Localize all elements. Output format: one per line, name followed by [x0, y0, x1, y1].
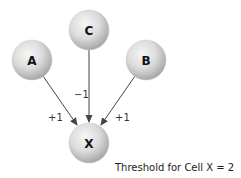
node-x: X — [69, 123, 109, 163]
threshold-caption: Threshold for Cell X = 2 — [114, 162, 234, 173]
node-c-label: C — [85, 24, 94, 38]
weight-label-c-to-x: −1 — [74, 89, 89, 100]
node-x-label: X — [84, 137, 94, 151]
neural-threshold-diagram: −1 +1 +1 C A B X Threshold for Cell X = … — [0, 0, 241, 178]
node-b: B — [126, 40, 166, 80]
node-b-label: B — [141, 54, 150, 68]
node-a-label: A — [27, 54, 37, 68]
weight-label-a-to-x: +1 — [48, 112, 63, 123]
weight-label-b-to-x: +1 — [115, 112, 130, 123]
node-c: C — [69, 10, 109, 50]
node-a: A — [12, 40, 52, 80]
